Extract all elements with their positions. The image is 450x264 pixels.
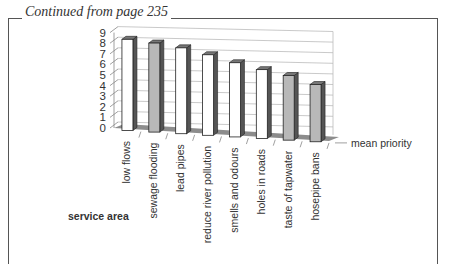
bar-side <box>267 67 271 139</box>
x-tick <box>193 135 195 141</box>
category-label: taste of tapwater <box>282 150 294 228</box>
bar-reduce-river-pollution <box>203 55 214 136</box>
category-label: lead pipes <box>174 144 186 192</box>
y-tick-label: 7 <box>100 48 106 60</box>
category-label: sewage flooding <box>147 142 159 218</box>
bar-side <box>133 36 137 130</box>
y-tick <box>110 27 118 33</box>
y-tick-label: 1 <box>100 111 106 123</box>
y-tick-label: 5 <box>100 69 106 81</box>
y-tick-label: 3 <box>100 90 106 102</box>
bar-side <box>214 52 218 136</box>
y-tick-label: 8 <box>100 37 106 49</box>
x-tick <box>139 132 141 138</box>
y-tick-label: 6 <box>100 58 106 70</box>
x-axis-title: service area <box>68 210 129 222</box>
gridline <box>118 37 333 42</box>
x-tick <box>300 141 302 147</box>
bar-side <box>160 40 164 132</box>
category-label: low flows <box>120 141 132 184</box>
bar-holes-in-roads <box>256 70 267 139</box>
y-tick-label: 2 <box>100 101 106 113</box>
bar-low-flows <box>122 39 133 130</box>
bar-side <box>240 60 244 137</box>
x-tick <box>327 143 329 149</box>
y-tick-label: 0 <box>100 122 106 134</box>
x-tick <box>220 136 222 142</box>
bar-lead-pipes <box>176 48 187 134</box>
y-tick-label: 9 <box>100 27 106 39</box>
category-label: smells and odours <box>228 147 240 232</box>
series-axis-label: mean priority <box>351 137 412 149</box>
category-label: holes in roads <box>255 149 267 214</box>
bar-smells-and-odours <box>229 63 240 137</box>
bar-side <box>321 82 325 142</box>
bar-sewage-flooding <box>149 43 160 132</box>
x-tick <box>273 140 275 146</box>
bar-chart: 0123456789low flowssewage floodinglead p… <box>0 0 450 264</box>
y-tick-label: 4 <box>100 80 107 92</box>
category-label: reduce river pollution <box>201 146 213 244</box>
x-tick <box>246 138 248 144</box>
gridline <box>118 27 333 32</box>
bar-hosepipe-bans <box>310 85 321 142</box>
category-label: hosepipe bans <box>309 152 321 220</box>
x-tick <box>166 133 168 139</box>
bar-taste-of-tapwater <box>283 75 294 140</box>
bar-side <box>294 72 298 140</box>
bar-side <box>187 45 191 134</box>
